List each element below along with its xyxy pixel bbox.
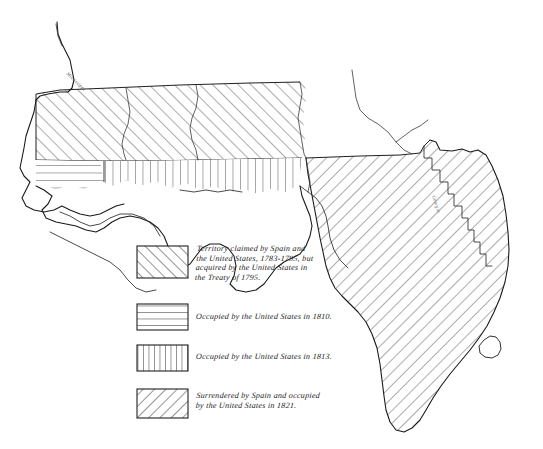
legend-label-surrendered-1821: Surrendered by Spain and occupied by the… xyxy=(195,391,416,410)
lake-okeechobee xyxy=(479,336,501,358)
legend-label-occupied-1810: Occupied by the United States in 1810. xyxy=(196,312,427,322)
legend-label-treaty-1795: Territory claimed by Spain and the Unite… xyxy=(195,244,408,282)
river-east-branch xyxy=(352,70,412,154)
river-east-tributary xyxy=(396,120,428,142)
legend-swatch-treaty-1795 xyxy=(137,246,188,278)
legend-swatch-surrendered-1821 xyxy=(137,389,188,418)
legend-swatch-occupied-1813 xyxy=(137,345,188,371)
historical-map-figure: Mississippi Georgia Territory claimed by… xyxy=(0,0,543,449)
mississippi-river-course xyxy=(36,22,74,100)
map-canvas: Mississippi Georgia xyxy=(0,0,543,449)
river-pearl xyxy=(56,24,62,46)
legend-label-occupied-1813: Occupied by the United States in 1813. xyxy=(196,352,427,362)
legend-swatch-occupied-1810 xyxy=(137,304,188,330)
region-surrendered-1821 xyxy=(0,0,543,449)
legend-swatches xyxy=(137,246,188,418)
